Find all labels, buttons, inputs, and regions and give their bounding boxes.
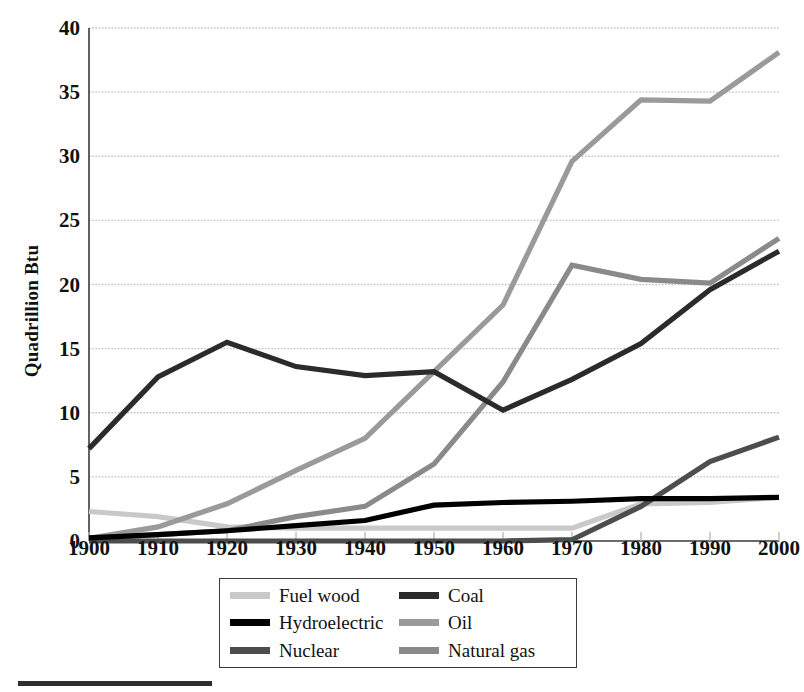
legend-label: Oil	[448, 613, 472, 632]
chart-legend: Fuel woodCoalHydroelectricOilNuclearNatu…	[219, 578, 577, 668]
legend-swatch-icon	[230, 619, 270, 626]
x-tick-label: 1930	[256, 536, 336, 561]
data-series-layer	[89, 52, 779, 541]
legend-label: Natural gas	[448, 641, 535, 660]
x-tick-label: 1980	[601, 536, 681, 561]
x-tick-label: 1920	[187, 536, 267, 561]
legend-swatch-icon	[399, 619, 439, 626]
legend-item-nuclear[interactable]: Nuclear	[230, 637, 399, 664]
series-line-natural-gas	[89, 238, 779, 538]
legend-swatch-icon	[399, 592, 439, 599]
x-tick-label: 1960	[463, 536, 543, 561]
legend-swatch-icon	[230, 592, 270, 599]
x-tick-label: 1910	[118, 536, 198, 561]
x-tick-label: 1950	[394, 536, 474, 561]
x-tick-label: 1900	[49, 536, 129, 561]
legend-label: Coal	[448, 586, 484, 605]
bottom-rule	[18, 681, 212, 686]
x-axis-tick-labels: 1900191019201930194019501960197019801990…	[0, 536, 795, 568]
gridlines	[89, 28, 779, 477]
legend-swatch-icon	[399, 647, 439, 654]
x-tick-label: 1990	[670, 536, 750, 561]
legend-item-hydroelectric[interactable]: Hydroelectric	[230, 609, 399, 636]
x-tick-label: 1970	[532, 536, 612, 561]
series-line-nuclear	[89, 437, 779, 541]
legend-item-natural-gas[interactable]: Natural gas	[399, 637, 568, 664]
legend-label: Hydroelectric	[279, 613, 383, 632]
legend-swatch-icon	[230, 647, 270, 654]
x-tick-label: 2000	[739, 536, 804, 561]
legend-item-fuel-wood[interactable]: Fuel wood	[230, 582, 399, 609]
x-tick-label: 1940	[325, 536, 405, 561]
legend-label: Nuclear	[279, 641, 339, 660]
legend-label: Fuel wood	[279, 586, 360, 605]
legend-item-coal[interactable]: Coal	[399, 582, 568, 609]
legend-item-oil[interactable]: Oil	[399, 609, 568, 636]
